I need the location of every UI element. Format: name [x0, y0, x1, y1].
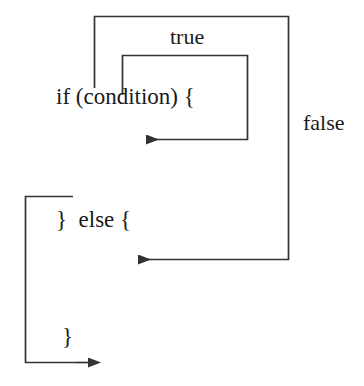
flow-connector-graphic — [0, 0, 364, 386]
edge-label-false: false — [303, 112, 345, 134]
code-label-else-statement: } else { — [56, 208, 131, 231]
if-else-flow-diagram: if (condition) { } else { } true false — [0, 0, 364, 386]
code-label-closing-brace: } — [62, 325, 73, 348]
edge-label-true: true — [170, 26, 204, 48]
code-label-if-statement: if (condition) { — [56, 85, 195, 108]
